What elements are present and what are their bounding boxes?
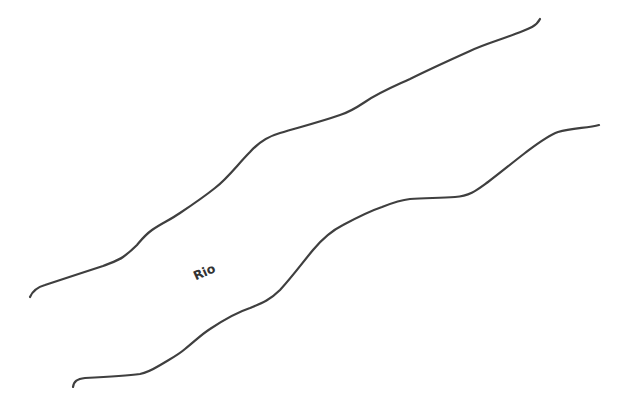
river-label: Rio [191, 260, 218, 283]
river-bank-lower [73, 125, 599, 387]
river-bank-upper [30, 19, 540, 297]
map-canvas: Rio [0, 0, 626, 407]
river-sketch: Rio [0, 0, 626, 407]
